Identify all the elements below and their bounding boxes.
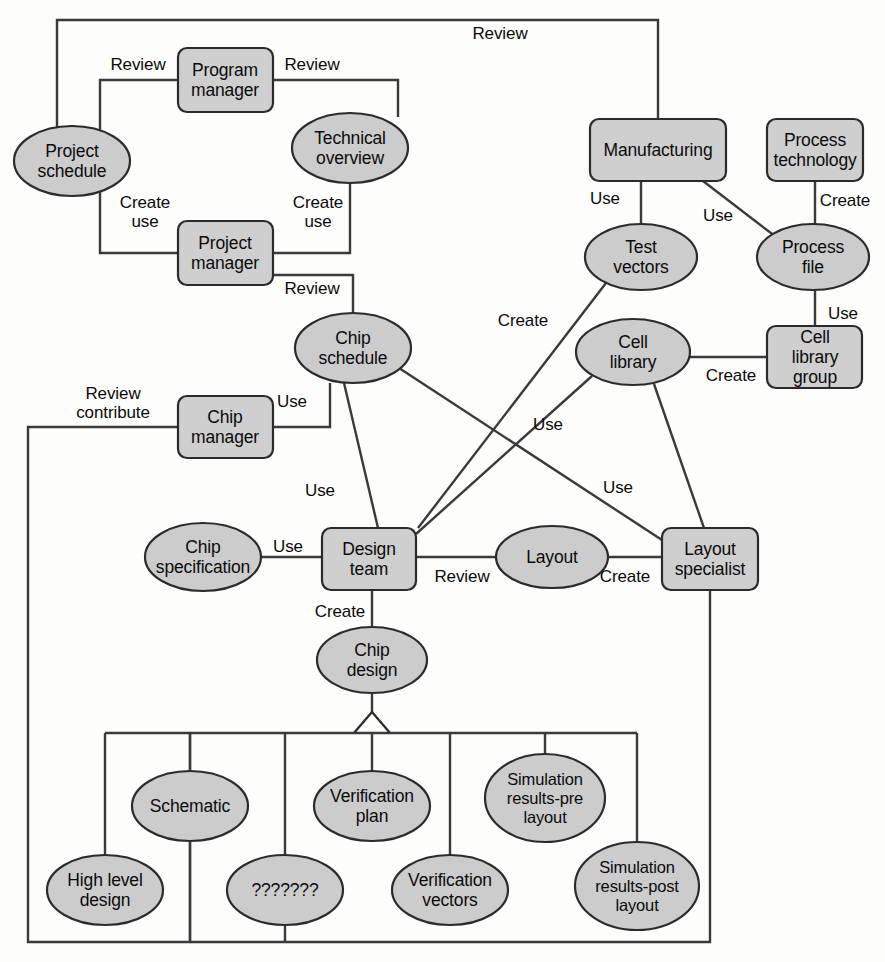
node-technical-overview[interactable] [292, 113, 408, 183]
node-process-technology[interactable] [767, 119, 863, 181]
node-process-file[interactable] [757, 224, 869, 290]
node-high-level-design[interactable] [47, 855, 163, 925]
node-chip-schedule[interactable] [295, 313, 411, 383]
edge-project-manager-chip-schedule [272, 275, 353, 313]
edge-cell-library-layout-specialist [654, 384, 704, 528]
aggregation-diamond-icon [354, 712, 390, 733]
node-chip-manager[interactable] [178, 396, 273, 458]
node-unknown-artifact[interactable] [227, 855, 343, 925]
node-manufacturing[interactable] [590, 119, 726, 181]
node-simulation-results-post[interactable] [575, 842, 699, 930]
node-program-manager[interactable] [178, 48, 273, 112]
node-chip-specification[interactable] [145, 523, 261, 591]
edge-technical-overview-project-manager [272, 183, 350, 253]
node-schematic[interactable] [132, 771, 248, 841]
node-chip-design[interactable] [317, 627, 427, 693]
node-layout-specialist[interactable] [662, 528, 758, 590]
node-layout[interactable] [496, 526, 608, 588]
edge-cell-library-design-team [416, 376, 592, 534]
edge-chip-schedule-design-team [344, 383, 378, 528]
node-design-team[interactable] [322, 528, 416, 590]
node-project-manager[interactable] [178, 221, 273, 285]
node-project-schedule[interactable] [14, 126, 130, 196]
edge-program-manager-technical-overview [272, 80, 398, 117]
diagram-graphics [0, 0, 885, 962]
node-verification-vectors[interactable] [392, 855, 508, 925]
node-layer [14, 48, 869, 930]
diagram-canvas: Project schedule Program manager Technic… [0, 0, 885, 962]
edge-chip-manager-chip-schedule [272, 383, 330, 427]
node-simulation-results-pre[interactable] [485, 754, 605, 842]
node-test-vectors[interactable] [585, 224, 697, 290]
node-cell-library[interactable] [576, 319, 690, 385]
edge-test-vectors-design-team [418, 283, 606, 528]
node-cell-library-group[interactable] [767, 326, 862, 388]
node-verification-plan[interactable] [314, 771, 430, 841]
